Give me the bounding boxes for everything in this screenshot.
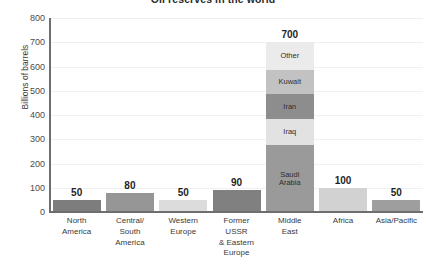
y-axis-tick-label: 400	[5, 110, 45, 120]
y-axis-tick-label: 500	[5, 86, 45, 96]
bar-group: SaudiArabiaIraqIranKuwaitOther700	[266, 18, 314, 212]
bar-segment[interactable]: Iraq	[266, 119, 314, 146]
y-axis-tick-label: 300	[5, 134, 45, 144]
bar-group: 50	[53, 18, 101, 212]
x-axis-tick-label: Asia/Pacific	[370, 216, 423, 227]
bar-group: 50	[159, 18, 207, 212]
x-axis-tick-label: NorthAmerica	[50, 216, 103, 238]
y-axis-tick-label: 100	[5, 183, 45, 193]
bar-group: 100	[319, 18, 367, 212]
x-axis-line	[49, 211, 423, 213]
x-axis-tick-label: Africa	[316, 216, 369, 227]
y-axis-tick-label: 600	[5, 62, 45, 72]
bar-group: 50	[372, 18, 420, 212]
bar-value-label: 100	[319, 175, 367, 186]
chart-page: Oil reserves in the world Billions of ba…	[0, 0, 426, 268]
bar-group: 80	[106, 18, 154, 212]
x-axis-tick-label: WesternEurope	[157, 216, 210, 238]
y-axis-tick-label: 200	[5, 159, 45, 169]
y-axis-ticks: 8007006005004003002001000	[0, 18, 45, 212]
y-axis-line	[49, 18, 51, 213]
bar-segment[interactable]: Kuwait	[266, 70, 314, 94]
bar-segment-label: Iraq	[283, 128, 296, 136]
bar-group: 90	[213, 18, 261, 212]
bar-segment-label: Kuwait	[279, 78, 302, 86]
y-axis-tick-label: 700	[5, 37, 45, 47]
bar-value-label: 50	[159, 187, 207, 198]
bar-segment-label: Other	[280, 52, 299, 60]
bar-value-label: 90	[213, 177, 261, 188]
bar[interactable]	[106, 193, 154, 212]
plot-area: 50805090SaudiArabiaIraqIranKuwaitOther70…	[50, 18, 423, 212]
bar-segment[interactable]: Iran	[266, 94, 314, 118]
bar-value-label: 50	[372, 187, 420, 198]
bar[interactable]	[319, 188, 367, 212]
bar-segment[interactable]: SaudiArabia	[266, 145, 314, 212]
bar-segment[interactable]: Other	[266, 42, 314, 70]
page-title: Oil reserves in the world	[0, 0, 426, 5]
y-axis-tick-label: 800	[5, 13, 45, 23]
x-axis-tick-label: Central/SouthAmerica	[103, 216, 156, 248]
bar[interactable]: SaudiArabiaIraqIranKuwaitOther	[266, 42, 314, 212]
bar-segment-label: SaudiArabia	[279, 171, 301, 187]
bar[interactable]	[213, 190, 261, 212]
bar-value-label: 700	[266, 29, 314, 40]
bar-value-label: 80	[106, 180, 154, 191]
bar-value-label: 50	[53, 187, 101, 198]
x-axis-tick-label: MiddleEast	[263, 216, 316, 238]
x-axis-tick-label: FormerUSSR& EasternEurope	[210, 216, 263, 259]
y-axis-tick-label: 0	[5, 207, 45, 217]
x-axis-category-labels: NorthAmericaCentral/SouthAmericaWesternE…	[50, 216, 423, 266]
bar-segment-label: Iran	[283, 103, 296, 111]
